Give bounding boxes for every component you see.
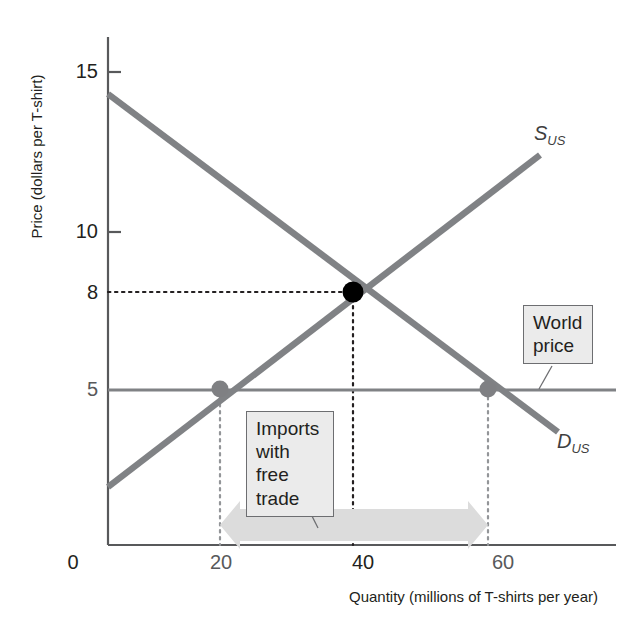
marker-equilibrium-40-8 (343, 282, 364, 303)
y-tick-label-10: 10 (52, 220, 98, 243)
imports-callout-line-2: with free (256, 440, 325, 486)
demand-curve-label-sub: US (571, 441, 589, 456)
x-tick-label-20: 20 (201, 551, 241, 574)
x-tick-label-60: 60 (483, 551, 523, 574)
y-tick-label-15: 15 (52, 60, 98, 83)
supply-curve-label-sub: US (547, 133, 565, 148)
y-tick-label-8: 8 (52, 281, 98, 304)
demand-curve-label: DUS (557, 430, 590, 456)
world-price-callout-line-1: World (533, 311, 584, 334)
x-axis-title: Quantity (millions of T-shirts per year) (349, 588, 598, 605)
supply-curve-label-main: S (534, 122, 547, 144)
world-price-callout-line-2: price (533, 334, 584, 357)
economics-chart: 15 10 8 5 0 20 40 60 Price (dollars per … (0, 0, 629, 625)
demand-curve-label-main: D (557, 430, 571, 452)
x-tick-label-40: 40 (343, 551, 383, 574)
imports-callout-line-1: Imports (256, 417, 325, 440)
world-price-leader-line (539, 366, 552, 389)
supply-curve-label: SUS (534, 122, 565, 148)
imports-callout-line-3: trade (256, 487, 325, 510)
y-axis-title: Price (dollars per T-shirt) (28, 47, 45, 267)
world-price-callout: World price (523, 305, 593, 364)
marker-quantity-supplied-20 (212, 381, 229, 398)
x-tick-label-0: 0 (53, 551, 93, 574)
y-tick-label-5: 5 (52, 378, 98, 401)
imports-callout: Imports with free trade (246, 411, 334, 517)
marker-quantity-demanded-60 (480, 381, 497, 398)
